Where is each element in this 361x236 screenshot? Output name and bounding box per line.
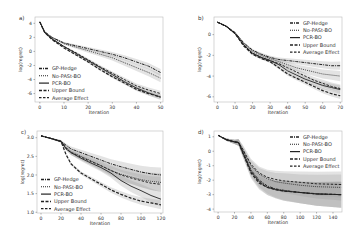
y-tick-label: 0 <box>208 149 211 154</box>
y-tick-label: -4 <box>206 207 211 212</box>
x-axis-label: Iteration <box>89 110 109 115</box>
panel-label: d) <box>198 129 204 135</box>
x-tick-label: 20 <box>232 215 238 220</box>
x-tick-label: 20 <box>85 105 91 110</box>
y-tick-label: 1.5 <box>27 191 34 196</box>
y-tick-label: 0 <box>208 32 211 37</box>
x-tick-label: 120 <box>157 216 166 221</box>
legend-label: PCR-BO <box>52 80 71 86</box>
y-axis-label: log(regret) <box>197 159 202 184</box>
y-axis-label: log(regret) <box>18 47 23 72</box>
y-axis-label: log(regret) <box>197 47 202 72</box>
x-tick-label: 50 <box>158 105 164 110</box>
legend-label: No-PASt-BO <box>303 27 332 33</box>
x-tick-label: 40 <box>134 105 140 110</box>
legend-label: PCR-BO <box>303 148 322 154</box>
x-tick-label: 10 <box>232 105 238 110</box>
legend-label: GP-Hedge <box>303 134 328 141</box>
y-tick-label: 2.0 <box>27 173 34 178</box>
legend-label: GP-Hedge <box>54 176 79 183</box>
y-tick-label: -2 <box>27 63 32 68</box>
panel-label: b) <box>198 15 204 21</box>
chart-panel-b: 0102030405060700-2-4-6Iterationlog(regre… <box>197 15 343 115</box>
y-tick-label: -2 <box>206 178 211 183</box>
x-axis-label: Iteration <box>90 221 110 226</box>
x-tick-label: 80 <box>118 216 124 221</box>
x-tick-label: 50 <box>302 105 308 110</box>
legend-label: Upper Bound <box>303 156 336 163</box>
x-tick-label: 0 <box>216 105 219 110</box>
x-tick-label: 60 <box>264 215 270 220</box>
y-tick-label: 0 <box>29 49 32 54</box>
legend-label: PCR-BO <box>303 34 322 40</box>
legend-label: No-PASt-BO <box>54 184 83 190</box>
y-axis-label: log(regret) <box>20 160 25 185</box>
legend-label: Average Effect <box>54 206 91 213</box>
legend-label: Upper Bound <box>52 87 85 94</box>
legend-label: No-PASt-BO <box>303 141 332 147</box>
y-tick-label: 3.0 <box>27 135 34 140</box>
y-tick-label: -4 <box>206 74 211 79</box>
x-tick-label: 20 <box>250 105 256 110</box>
legend-label: No-PASt-BO <box>52 73 81 79</box>
legend-label: Average Effect <box>303 163 340 170</box>
x-tick-label: 0 <box>217 215 220 220</box>
x-tick-label: 60 <box>98 216 104 221</box>
legend-label: Average Effect <box>303 49 340 56</box>
y-tick-label: -3 <box>206 192 211 197</box>
x-tick-label: 70 <box>337 105 343 110</box>
y-tick-label: 1.0 <box>27 210 34 215</box>
legend-label: Average Effect <box>52 95 89 102</box>
x-tick-label: 30 <box>109 105 115 110</box>
y-tick-label: 1 <box>208 134 211 139</box>
x-tick-label: 0 <box>38 105 41 110</box>
chart-panel-a: 01020304050420-2-4-6Iterationlog(regret)… <box>18 15 164 115</box>
chart-panel-d: 02040608010012014010-1-2-3-4Iterationlog… <box>197 129 342 225</box>
x-tick-label: 140 <box>329 215 338 220</box>
chart-panel-c: 0204060801001203.02.52.01.51.0Iterationl… <box>20 129 165 226</box>
legend-label: GP-Hedge <box>303 20 328 27</box>
panel-label: c) <box>21 129 26 135</box>
legend-label: Upper Bound <box>303 42 336 49</box>
y-tick-label: -6 <box>206 94 211 99</box>
x-tick-label: 60 <box>320 105 326 110</box>
y-tick-label: 2 <box>29 35 32 40</box>
x-tick-label: 80 <box>281 215 287 220</box>
x-tick-label: 40 <box>78 216 84 221</box>
legend-label: Upper Bound <box>54 198 87 205</box>
panel-label: a) <box>19 15 25 21</box>
y-tick-label: -6 <box>27 91 32 96</box>
y-tick-label: -4 <box>27 77 32 82</box>
x-tick-label: 100 <box>137 216 146 221</box>
y-tick-label: 4 <box>29 21 32 26</box>
x-tick-label: 0 <box>40 216 43 221</box>
x-tick-label: 30 <box>267 105 273 110</box>
y-tick-label: -2 <box>206 53 211 58</box>
x-axis-label: Iteration <box>268 110 288 115</box>
legend-label: GP-Hedge <box>52 65 77 72</box>
x-tick-label: 20 <box>58 216 64 221</box>
y-tick-label: -1 <box>206 163 211 168</box>
figure: 01020304050420-2-4-6Iterationlog(regret)… <box>0 0 361 236</box>
x-tick-label: 40 <box>248 215 254 220</box>
x-tick-label: 100 <box>296 215 305 220</box>
x-axis-label: Iteration <box>268 220 288 225</box>
y-tick-label: 2.5 <box>27 154 34 159</box>
x-tick-label: 120 <box>312 215 321 220</box>
x-tick-label: 10 <box>61 105 67 110</box>
x-tick-label: 40 <box>285 105 291 110</box>
legend-label: PCR-BO <box>54 191 73 197</box>
